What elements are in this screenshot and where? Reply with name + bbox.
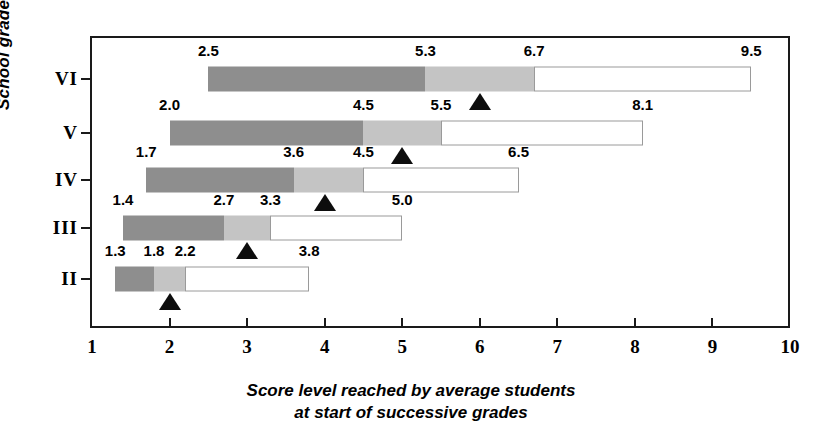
x-tick-mark-6 [479,318,481,328]
average-marker-iv [314,194,336,211]
y-axis-title: School grade [0,0,14,110]
y-tick-label-ii: II [34,268,78,290]
value-label-iii-0: 1.4 [113,191,134,208]
bar-segment-light-iii [270,216,402,241]
average-marker-vi [469,93,491,110]
x-tick-label-6: 6 [475,336,485,358]
bar-row-vi[interactable] [208,67,751,92]
x-tick-label-8: 8 [630,336,640,358]
x-tick-mark-8 [634,318,636,328]
x-tick-label-9: 9 [708,336,718,358]
bar-segment-mid-ii [154,267,185,292]
average-marker-ii [159,293,181,310]
bar-row-ii[interactable] [115,267,309,292]
x-axis-title-line2: at start of successive grades [0,402,822,424]
value-label-v-1: 4.5 [353,96,374,113]
x-tick-mark-9 [711,318,713,328]
value-label-ii-3: 3.8 [299,242,320,259]
value-label-iv-0: 1.7 [136,143,157,160]
bar-segment-mid-vi [425,67,534,92]
x-tick-mark-4 [324,318,326,328]
x-tick-mark-5 [401,318,403,328]
value-label-vi-2: 6.7 [524,42,545,59]
x-tick-label-4: 4 [320,336,330,358]
value-label-v-2: 5.5 [431,96,452,113]
bar-row-iv[interactable] [146,168,518,193]
bar-segment-light-iv [363,168,518,193]
average-marker-v [391,147,413,164]
y-tick-label-iii: III [34,217,78,239]
bar-segment-light-ii [185,267,309,292]
y-tick-label-v: V [34,122,78,144]
x-tick-label-7: 7 [553,336,563,358]
x-axis-title-line1: Score level reached by average students [0,380,822,402]
bar-segment-mid-iv [294,168,364,193]
x-tick-label-3: 3 [242,336,252,358]
y-tick-mark-v [81,132,90,134]
x-tick-label-10: 10 [781,336,800,358]
bar-row-iii[interactable] [123,216,402,241]
bar-segment-dark-iii [123,216,224,241]
x-tick-label-2: 2 [165,336,175,358]
bar-segment-mid-v [363,121,441,146]
y-tick-mark-vi [81,78,90,80]
value-label-ii-2: 2.2 [175,242,196,259]
value-label-vi-0: 2.5 [198,42,219,59]
y-tick-label-iv: IV [34,169,78,191]
y-tick-mark-ii [81,278,90,280]
bar-row-v[interactable] [170,121,643,146]
bar-segment-light-v [441,121,643,146]
value-label-iii-3: 5.0 [392,191,413,208]
value-label-v-0: 2.0 [159,96,180,113]
bar-segment-light-vi [534,67,751,92]
value-label-iii-2: 3.3 [260,191,281,208]
bar-segment-dark-iv [146,168,293,193]
bar-segment-dark-ii [115,267,154,292]
average-marker-iii [236,242,258,259]
value-label-iv-3: 6.5 [508,143,529,160]
value-label-iv-1: 3.6 [283,143,304,160]
x-tick-mark-3 [246,318,248,328]
x-tick-mark-7 [556,318,558,328]
y-tick-mark-iv [81,179,90,181]
value-label-iv-2: 4.5 [353,143,374,160]
x-tick-label-5: 5 [397,336,407,358]
y-tick-mark-iii [81,227,90,229]
y-tick-label-vi: VI [34,68,78,90]
value-label-v-3: 8.1 [632,96,653,113]
bar-segment-mid-iii [224,216,271,241]
value-label-iii-1: 2.7 [213,191,234,208]
value-label-ii-0: 1.3 [105,242,126,259]
bar-segment-dark-vi [208,67,425,92]
bar-segment-dark-v [170,121,364,146]
chart-container: School grade VI2.55.36.79.5V2.04.55.58.1… [0,0,822,431]
value-label-ii-1: 1.8 [144,242,165,259]
value-label-vi-1: 5.3 [415,42,436,59]
value-label-vi-3: 9.5 [741,42,762,59]
x-tick-label-1: 1 [87,336,97,358]
x-tick-mark-2 [169,318,171,328]
